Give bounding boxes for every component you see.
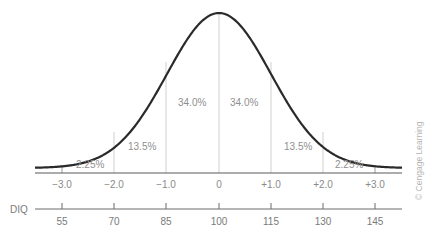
diq-tick-label: 55 <box>56 216 68 227</box>
pct-label: 13.5% <box>284 141 312 152</box>
diq-tick-label: 100 <box>211 216 228 227</box>
diq-ticks <box>62 203 375 209</box>
sd-tick-label: −1.0 <box>156 179 176 190</box>
diq-tick-label: 70 <box>108 216 120 227</box>
sd-tick-label: 0 <box>216 179 222 190</box>
sd-tick-label: +3.0 <box>365 179 385 190</box>
normal-distribution-chart: 2.25% 13.5% 34.0% 34.0% 13.5% 2.25% −3.0… <box>0 0 432 241</box>
sd-tick-label: +2.0 <box>313 179 333 190</box>
pct-label: 2.25% <box>76 159 104 170</box>
diq-axis-title: DIQ <box>10 204 28 215</box>
diq-tick-label: 115 <box>263 216 279 227</box>
sd-tick-label: −3.0 <box>52 179 72 190</box>
pct-label: 2.25% <box>335 159 363 170</box>
pct-label: 34.0% <box>178 97 206 108</box>
diq-tick-label: 145 <box>367 216 384 227</box>
diq-tick-label: 85 <box>160 216 172 227</box>
pct-label: 13.5% <box>128 141 156 152</box>
copyright-credit: © Cengage Learning <box>414 121 424 200</box>
pct-label: 34.0% <box>230 97 258 108</box>
sd-tick-label: +1.0 <box>261 179 281 190</box>
diq-tick-label: 130 <box>315 216 332 227</box>
sd-tick-label: −2.0 <box>104 179 124 190</box>
